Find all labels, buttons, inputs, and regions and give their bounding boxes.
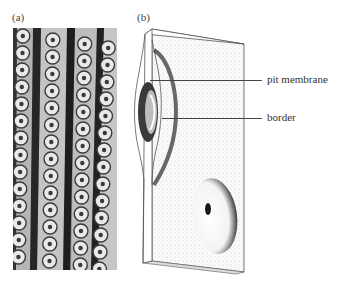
leader-line-border	[162, 118, 262, 119]
panel-a-label: (a)	[12, 11, 24, 23]
micrograph-bordered-pits	[13, 28, 117, 270]
leader-line-pit-membrane	[150, 80, 262, 81]
bordered-pit-diagram	[130, 20, 250, 280]
callout-pit-membrane: pit membrane	[267, 73, 328, 85]
callout-border: border	[267, 111, 296, 123]
